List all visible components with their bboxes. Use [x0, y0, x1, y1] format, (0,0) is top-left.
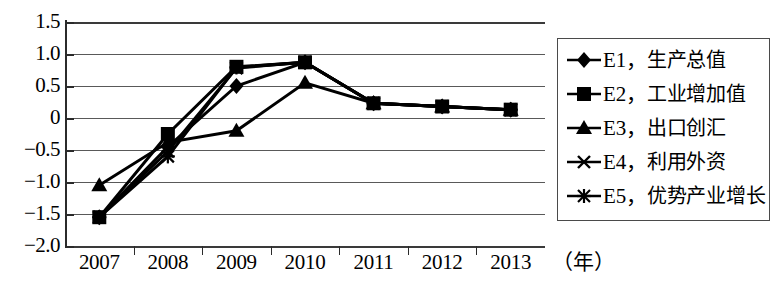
asterisk-marker-icon [367, 96, 381, 110]
legend-item-label: E2，工业增加值 [603, 84, 746, 105]
asterisk-marker-icon [92, 210, 106, 224]
asterisk-marker-icon [161, 149, 175, 163]
y-axis-tick-labels: 1.51.00.50−0.5−1.0−1.5−2.0 [0, 22, 60, 246]
diamond-marker-icon [565, 49, 603, 71]
y-axis-tick-mark [65, 86, 74, 88]
x-axis-unit-label: （年） [552, 252, 615, 273]
y-axis-tick-label: 1.5 [2, 11, 60, 32]
y-axis-tick-mark [65, 150, 74, 152]
gridline [65, 246, 545, 248]
y-axis-tick-label: 0 [2, 107, 60, 128]
y-axis-tick-mark [65, 22, 74, 24]
y-axis-tick-mark [65, 214, 74, 216]
x-marker-icon [565, 151, 603, 173]
asterisk-marker-icon [577, 189, 591, 203]
y-axis-tick-mark [65, 182, 74, 184]
legend-item-text: 利用外资 [647, 150, 726, 174]
x-axis-tick-label: 2012 [422, 252, 463, 273]
legend-item-text: 优势产业增长 [647, 184, 766, 208]
y-axis-tick-mark [65, 246, 74, 248]
x-axis-tick-labels: 2007200820092010201120122013 [65, 252, 545, 284]
legend-item-code: E4， [603, 150, 647, 174]
y-axis-tick-label: 1.0 [2, 43, 60, 64]
y-axis-tick-label: −1.5 [2, 203, 60, 224]
triangle-marker-icon [297, 75, 313, 89]
triangle-marker-icon [565, 117, 603, 139]
legend-item-E5: E5，优势产业增长 [558, 179, 769, 213]
legend-item-E2: E2，工业增加值 [558, 77, 769, 111]
asterisk-marker-icon [298, 55, 312, 69]
y-axis-tick-label: −2.0 [2, 235, 60, 256]
triangle-marker-icon [228, 123, 244, 137]
chart-legend: E1，生产总值E2，工业增加值E3，出口创汇E4，利用外资E5，优势产业增长 [557, 38, 770, 221]
x-axis-tick-label: 2009 [216, 252, 257, 273]
legend-item-label: E1，生产总值 [603, 50, 726, 71]
chart-figure: 1.51.00.50−0.5−1.0−1.5−2.0 2007200820092… [0, 0, 774, 285]
y-axis-tick-mark [65, 118, 74, 120]
asterisk-marker-icon [504, 103, 518, 117]
square-marker-icon [577, 87, 591, 101]
legend-item-code: E2， [603, 82, 647, 106]
x-axis-tick-label: 2013 [490, 252, 531, 273]
y-axis-tick-label: −1.0 [2, 171, 60, 192]
series-lines [65, 22, 545, 246]
y-axis-tick-label: 0.5 [2, 75, 60, 96]
legend-item-code: E3， [603, 116, 647, 140]
legend-item-code: E1， [603, 48, 647, 72]
diamond-marker-icon [577, 52, 591, 68]
legend-item-E3: E3，出口创汇 [558, 111, 769, 145]
legend-item-label: E3，出口创汇 [603, 118, 726, 139]
x-axis-tick-label: 2010 [285, 252, 326, 273]
x-axis-tick-label: 2007 [79, 252, 120, 273]
y-axis-tick-mark [65, 54, 74, 56]
asterisk-marker-icon [229, 60, 243, 74]
legend-item-code: E5， [603, 184, 647, 208]
triangle-marker-icon [91, 177, 107, 191]
legend-item-text: 出口创汇 [647, 116, 726, 140]
square-marker-icon [565, 83, 603, 105]
legend-item-E4: E4，利用外资 [558, 145, 769, 179]
asterisk-marker-icon [565, 185, 603, 207]
asterisk-marker-icon [435, 99, 449, 113]
legend-item-text: 工业增加值 [647, 82, 746, 106]
legend-item-E1: E1，生产总值 [558, 43, 769, 77]
plot-area [65, 22, 545, 246]
legend-item-label: E4，利用外资 [603, 152, 726, 173]
legend-item-label: E5，优势产业增长 [603, 186, 766, 207]
x-axis-tick-label: 2008 [147, 252, 188, 273]
y-axis-tick-label: −0.5 [2, 139, 60, 160]
series-E3 [91, 75, 518, 191]
legend-item-text: 生产总值 [647, 48, 726, 72]
x-axis-tick-label: 2011 [354, 252, 394, 273]
